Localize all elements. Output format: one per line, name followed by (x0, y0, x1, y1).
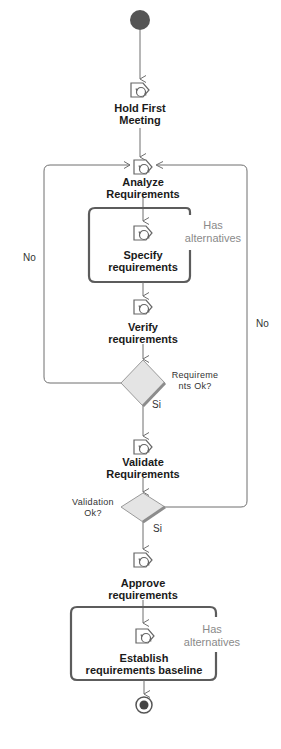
activity-icon (134, 553, 152, 567)
alternatives-note: Has alternatives (177, 623, 247, 649)
decision-yes-label: Si (152, 399, 161, 411)
activity-verify-requirements[interactable]: Verify requirements (93, 321, 193, 345)
activity-icon (134, 160, 152, 174)
alternatives-note: Has alternatives (178, 219, 248, 245)
decision-yes-label: Si (153, 523, 162, 535)
activity-hold-first-meeting[interactable]: Hold First Meeting (90, 102, 190, 126)
activity-icon (136, 629, 154, 643)
activity-icon (131, 83, 149, 97)
activity-approve-requirements[interactable]: Approve requirements (93, 577, 193, 601)
activity-icon (134, 226, 152, 240)
decision-condition-label: Requireme nts Ok? (168, 370, 222, 392)
decision-condition-label: Validation Ok? (66, 497, 120, 519)
activity-validate-requirements[interactable]: Validate Requirements (93, 456, 193, 480)
start-node-icon (130, 10, 150, 30)
decision-no-label: No (23, 252, 36, 264)
activity-analyze-requirements[interactable]: Analyze Requirements (93, 176, 193, 200)
decision-validation-ok (121, 493, 165, 522)
activity-establish-requirements-baseline[interactable]: Establish requirements baseline (74, 652, 214, 676)
activity-icon (134, 440, 152, 454)
activity-specify-requirements[interactable]: Specify requirements (93, 249, 193, 273)
decision-no-label: No (256, 318, 269, 330)
activity-icon (134, 300, 152, 314)
